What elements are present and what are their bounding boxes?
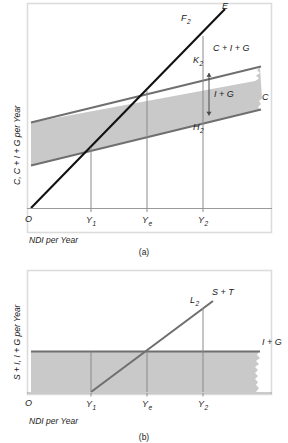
figure-canvas: E F2 K2 H2 C + I + G C I + G O Y1 Ye Y2 …: [0, 0, 288, 443]
panel-a-caption: (a): [139, 247, 150, 257]
economics-figure: E F2 K2 H2 C + I + G C I + G O Y1 Ye Y2 …: [0, 0, 288, 443]
panel-b-x-axis-title: NDI per Year: [29, 416, 79, 426]
panel-a-label-bottom-band: C: [262, 92, 269, 102]
panel-b-label-ig: I + G: [262, 337, 282, 347]
panel-b: S + T L2 I + G O Y1 Ye Y2 NDI per Year S…: [12, 271, 282, 443]
panel-a: E F2 K2 H2 C + I + G C I + G O Y1 Ye Y2 …: [12, 1, 272, 257]
panel-b-xtick-label-2: Y2: [198, 399, 208, 411]
panel-a-label-e: E: [222, 1, 229, 11]
panel-a-origin-label: O: [25, 214, 32, 224]
panel-b-y-axis-title: S + I, I + G per Year: [12, 303, 22, 380]
panel-b-origin-label: O: [25, 398, 32, 408]
panel-a-y-axis-title: C, C + I + G per Year: [12, 104, 22, 185]
panel-a-label-gap-bracket: I + G: [214, 89, 234, 99]
panel-b-shaded-area: [31, 352, 260, 393]
panel-a-x-axis-title: NDI per Year: [29, 235, 79, 245]
panel-b-xtick-label-0: Y1: [86, 399, 96, 411]
panel-a-label-top-band: C + I + G: [213, 43, 250, 53]
panel-b-label-st: S + T: [212, 287, 235, 297]
panel-b-caption: (b): [139, 432, 150, 442]
panel-b-xtick-label-1: Ye: [142, 399, 152, 411]
